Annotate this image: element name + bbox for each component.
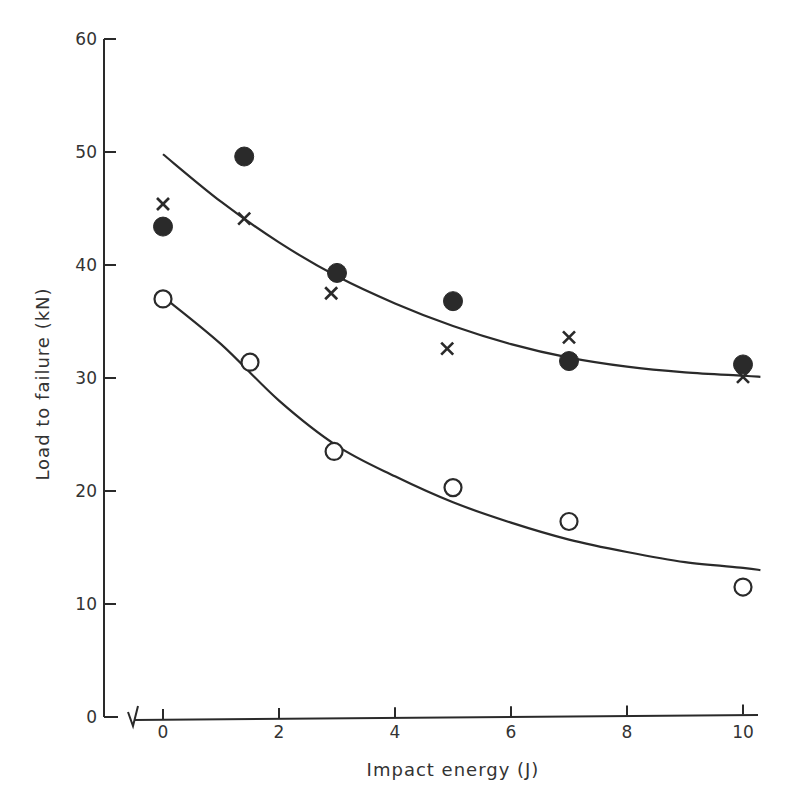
x-tick-label: 2 <box>274 722 285 742</box>
x-axis-line <box>134 715 758 720</box>
open-circle-marker <box>242 354 259 371</box>
x-tick-label: 4 <box>390 722 401 742</box>
y-tick-label: 10 <box>75 594 97 614</box>
y-axis-title: Load to failure (kN) <box>32 287 53 480</box>
y-tick-label: 0 <box>86 707 97 727</box>
x-tick-label: 8 <box>622 722 633 742</box>
open-circle-marker <box>561 513 578 530</box>
x-axis: 0246810 <box>134 705 758 743</box>
cross-marker <box>441 343 453 355</box>
cross-marker <box>157 198 169 210</box>
y-tick-label: 40 <box>75 255 97 275</box>
filled-circle-marker <box>328 263 347 282</box>
filled-circle-marker <box>734 355 753 374</box>
open-circle-marker <box>155 290 172 307</box>
y-tick-label: 20 <box>75 481 97 501</box>
upper-fit-curve <box>163 154 760 377</box>
y-tick-label: 30 <box>75 368 97 388</box>
lower-fit-curve <box>163 297 760 570</box>
x-tick-label: 0 <box>158 722 169 742</box>
filled-circle-marker <box>235 147 254 166</box>
chart-canvas: 0102030405060 0246810 Impact energy (J) … <box>0 0 789 805</box>
filled-circle-marker <box>154 217 173 236</box>
y-axis: 0102030405060 <box>75 29 138 727</box>
cross-marker <box>563 331 575 343</box>
open-circle-marker <box>445 479 462 496</box>
y-tick-label: 50 <box>75 142 97 162</box>
x-tick-label: 10 <box>732 722 754 742</box>
open-circle-marker <box>326 443 343 460</box>
open-circle-marker <box>735 579 752 596</box>
cross-marker <box>325 287 337 299</box>
filled-circle-marker <box>444 292 463 311</box>
axis-break-icon <box>128 706 138 726</box>
cross-marker <box>238 213 250 225</box>
filled-circle-marker <box>560 352 579 371</box>
x-tick-label: 6 <box>506 722 517 742</box>
x-axis-title: Impact energy (J) <box>367 759 540 780</box>
y-tick-label: 60 <box>75 29 97 49</box>
